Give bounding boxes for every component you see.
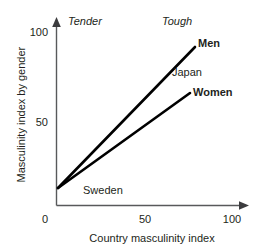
x-tick-label-100: 100 xyxy=(217,214,247,225)
annotation-japan: Japan xyxy=(172,67,202,78)
chart-figure: 100 50 0 50 100 Masculinity index by gen… xyxy=(0,0,262,252)
y-axis-arrow xyxy=(52,17,61,27)
y-tick-label-0: 0 xyxy=(18,214,48,225)
series-label-men: Men xyxy=(198,38,220,49)
series-label-women: Women xyxy=(193,87,233,98)
y-axis-title: Masculinity index by gender xyxy=(16,53,27,183)
x-axis-title: Country masculinity index xyxy=(56,233,248,244)
y-tick-label-100: 100 xyxy=(18,27,48,38)
x-tick-label-50: 50 xyxy=(130,214,160,225)
x-axis-arrow xyxy=(239,201,249,210)
annotation-tough: Tough xyxy=(162,16,192,27)
series-line-women xyxy=(58,93,190,188)
annotation-sweden: Sweden xyxy=(83,185,123,196)
annotation-tender: Tender xyxy=(68,16,102,27)
